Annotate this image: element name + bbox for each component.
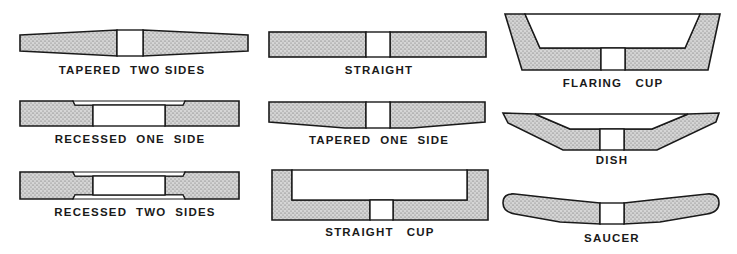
label-saucer: SAUCER <box>584 232 640 244</box>
shape-recessed-two-sides <box>20 172 239 199</box>
label-recessed-one-side: RECESSED ONE SIDE <box>55 133 206 145</box>
arbor-hole <box>117 30 143 56</box>
cup-cavity <box>292 170 467 200</box>
cup-cavity <box>525 14 700 48</box>
arbor-hole <box>370 200 393 220</box>
label-straight-cup: STRAIGHT CUP <box>325 226 434 238</box>
shape-recessed-one-side <box>20 101 239 126</box>
arbor-hole <box>600 203 624 224</box>
shape-straight <box>269 32 486 57</box>
label-flaring-cup: FLARING CUP <box>563 77 664 89</box>
label-tapered-one-side: TAPERED ONE SIDE <box>309 134 449 146</box>
arbor-hole <box>93 176 165 195</box>
shape-flaring-cup <box>505 14 720 70</box>
arbor-hole <box>366 102 390 128</box>
shape-straight-cup <box>272 170 488 220</box>
shape-saucer <box>503 194 719 224</box>
arbor-hole <box>366 32 390 57</box>
arbor-hole <box>601 48 625 70</box>
label-straight: STRAIGHT <box>345 64 413 76</box>
shape-tapered-two-sides <box>20 30 248 56</box>
label-dish: DISH <box>596 154 628 166</box>
arbor-hole <box>600 129 624 150</box>
label-recessed-two-sides: RECESSED TWO SIDES <box>54 206 215 218</box>
shape-tapered-one-side <box>269 102 485 128</box>
label-tapered-two-sides: TAPERED TWO SIDES <box>59 64 206 76</box>
shape-dish <box>503 113 719 150</box>
arbor-hole <box>93 105 165 126</box>
